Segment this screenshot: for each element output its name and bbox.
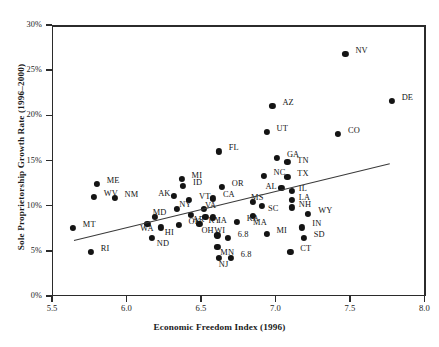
data-point-label: MT [83,220,96,229]
y-tick-mark [46,160,52,161]
x-tick-label: 6.5 [181,303,221,313]
x-tick-mark [126,296,127,302]
data-point-label: IN [312,219,321,228]
data-point-label: FL [229,143,239,152]
y-axis-title: Sole Proprietorship Growth Rate (1996–20… [16,32,26,282]
y-tick-mark [46,205,52,206]
x-tick-mark [275,296,276,302]
data-point-label: CO [348,126,360,135]
x-tick-label: 8.0 [404,303,439,313]
data-point-label: MA [253,218,267,227]
x-axis-title: Economic Freedom Index (1996) [0,322,439,332]
data-point-label: AK [158,189,170,198]
data-point-label: OR [232,179,244,188]
data-point-label: VT [199,192,210,201]
data-point-label: UT [277,124,288,133]
data-point-label: RI [101,244,110,253]
data-point-label: WA [140,224,153,233]
data-point-label: TX [297,169,308,178]
data-point-label: TN [297,156,308,165]
data-point-label: DE [402,93,413,102]
data-point-label: IA [218,216,227,225]
data-point-label: CA [223,190,235,199]
data-point-label: SD [314,230,325,239]
x-tick-mark [51,296,52,302]
y-tick-mark [46,69,52,70]
data-point-label: WI [214,226,225,235]
y-tick-label: 30% [2,20,42,29]
data-point-label: NJ [219,260,229,269]
data-point-label: NH [299,200,311,209]
x-tick-mark [424,296,425,302]
data-point-label: NM [125,190,139,199]
plot-frame-right [424,25,426,296]
data-point-label: ID [193,178,202,187]
plot-area [52,25,425,296]
x-tick-mark [349,296,350,302]
x-tick-label: 6.0 [106,303,146,313]
data-point-label: OH [201,226,213,235]
x-tick-mark [200,296,201,302]
data-point-label: WY [318,206,332,215]
data-point-label: ND [157,239,169,248]
y-tick-mark [46,250,52,251]
data-point-label: ME [107,176,120,185]
data-point-label: MD [153,208,167,217]
y-tick-mark [46,24,52,25]
data-point-label: AZ [282,98,293,107]
y-tick-label: 0% [2,291,42,300]
data-point-label: AL [265,182,276,191]
data-point-label: 6.8 [238,230,249,239]
x-tick-label: 7.0 [255,303,295,313]
data-point-label: HI [165,228,174,237]
data-point-label: SC [268,204,278,213]
x-tick-label: 7.5 [330,303,370,313]
data-point-label: NV [355,46,367,55]
plot-frame-top [52,25,425,27]
data-point-label: CT [300,244,311,253]
x-tick-label: 5.5 [32,303,72,313]
scatter-plot-figure: 0%5%10%15%20%25%30% 5.56.06.57.07.58.0 M… [0,0,439,347]
data-point-label: MI [277,226,287,235]
y-tick-mark [46,115,52,116]
data-point-label: 6.8 [241,250,252,259]
